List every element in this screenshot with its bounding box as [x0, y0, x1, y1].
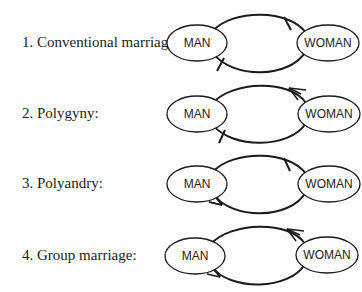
woman-label: WOMAN: [303, 248, 350, 262]
man-label: MAN: [182, 249, 209, 263]
man-label: MAN: [184, 36, 211, 50]
row-polyandry: 3. Polyandry: MAN WOMAN: [0, 148, 362, 220]
top-arc: [213, 156, 306, 174]
man-label: MAN: [184, 107, 211, 121]
relationship-diagram: MAN WOMAN: [0, 148, 362, 220]
relationship-diagram: MAN WOMAN: [0, 77, 362, 149]
man-label: MAN: [184, 177, 211, 191]
woman-label: WOMAN: [304, 36, 351, 50]
row-group-marriage: 4. Group marriage: MAN WOMAN: [0, 220, 362, 292]
bottom-arc: [211, 264, 305, 285]
row-polygyny: 2. Polygyny: MAN WOMAN: [0, 77, 362, 149]
woman-label: WOMAN: [305, 177, 352, 191]
bottom-arc: [213, 123, 306, 143]
bottom-arc: [213, 192, 306, 213]
woman-label: WOMAN: [305, 107, 352, 121]
row-conventional-marriage: 1. Conventional marriage: MAN WOMAN: [0, 7, 362, 79]
bottom-arc: [213, 51, 306, 72]
relationship-diagram: MAN WOMAN: [0, 7, 362, 79]
relationship-diagram: MAN WOMAN: [0, 220, 362, 292]
top-arc: [213, 15, 306, 33]
